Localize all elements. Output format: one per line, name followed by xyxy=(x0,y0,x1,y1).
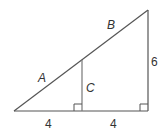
right-angle-marker-inner xyxy=(74,104,82,111)
label-a: A xyxy=(37,71,46,85)
label-base-right: 4 xyxy=(110,117,117,131)
label-b: B xyxy=(107,18,115,32)
triangle-diagram: A B C 6 4 4 xyxy=(0,0,164,140)
right-angle-marker-outer xyxy=(140,104,148,111)
hypotenuse-line xyxy=(14,10,148,111)
label-c: C xyxy=(86,81,95,95)
label-base-left: 4 xyxy=(45,117,52,131)
label-six: 6 xyxy=(151,55,158,69)
